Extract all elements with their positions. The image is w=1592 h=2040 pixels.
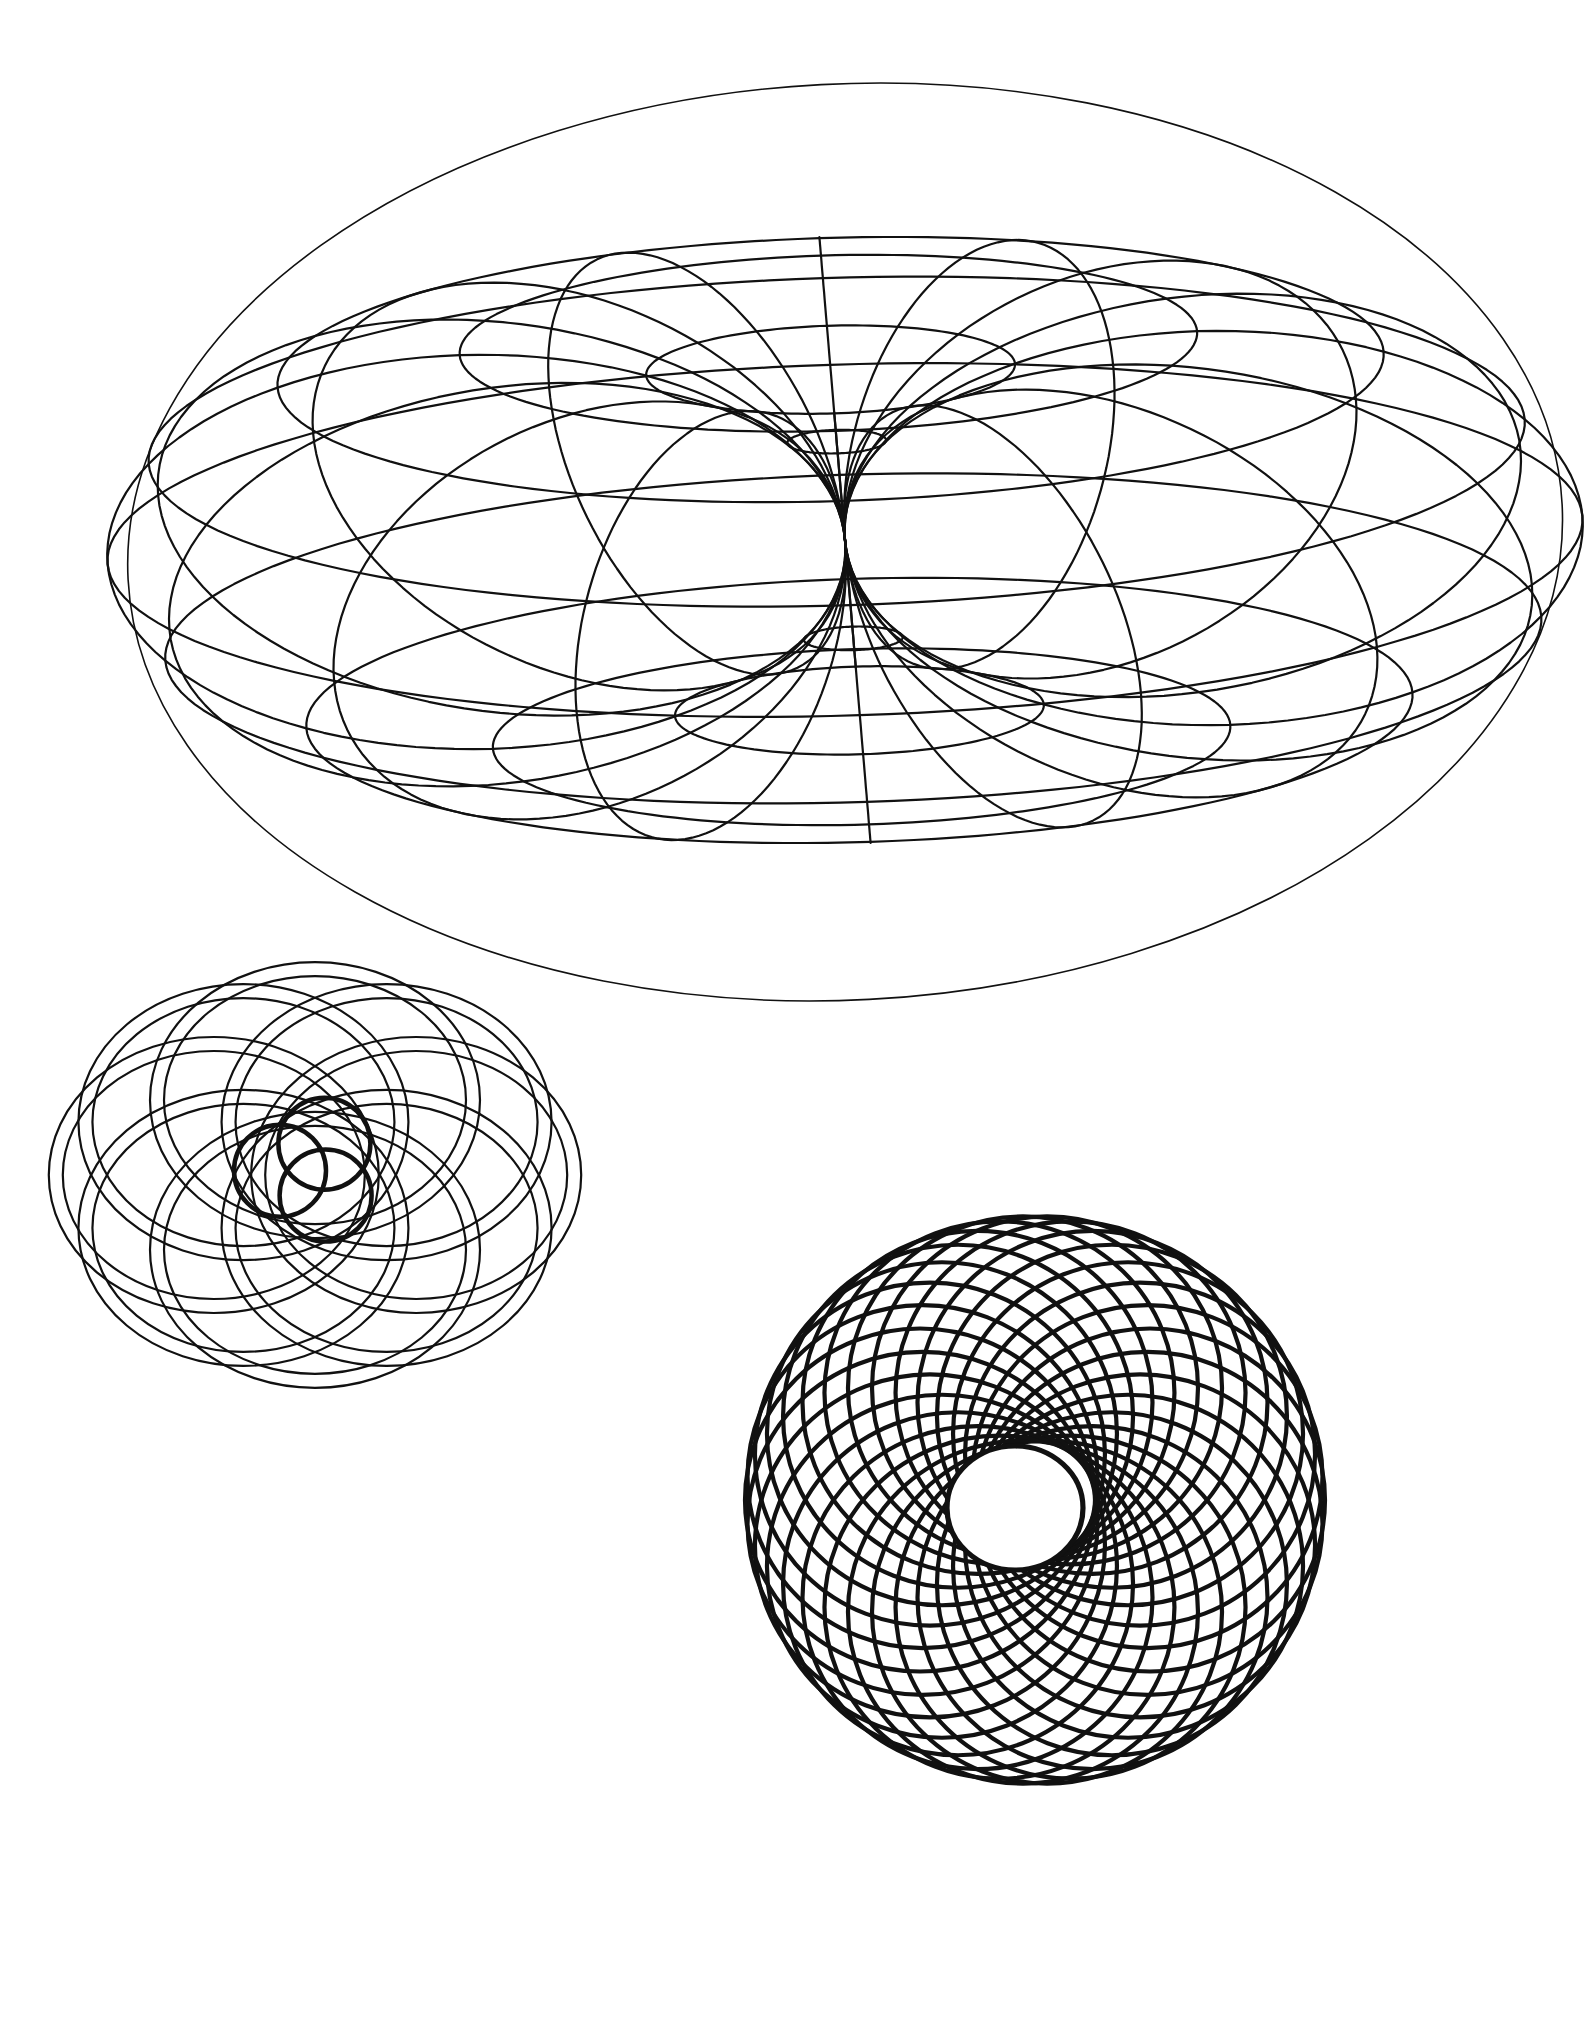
torus-meridian-line (548, 253, 846, 675)
torus-meridian-line (334, 402, 846, 820)
rosette-ring-band (251, 1037, 581, 1313)
wireframe-torus-figure (104, 47, 1586, 1037)
spiral-center-hole (947, 1446, 1083, 1570)
circle-spiral-torus-figure (745, 1216, 1325, 1783)
interlaced-rosette-figure (49, 962, 581, 1388)
drawing-page (0, 0, 1592, 2040)
geometric-drawing-canvas (0, 0, 1592, 2040)
rosette-ring-band (49, 1037, 379, 1313)
torus-meridian-line (844, 405, 1142, 827)
torus-meridian-line (845, 261, 1357, 679)
